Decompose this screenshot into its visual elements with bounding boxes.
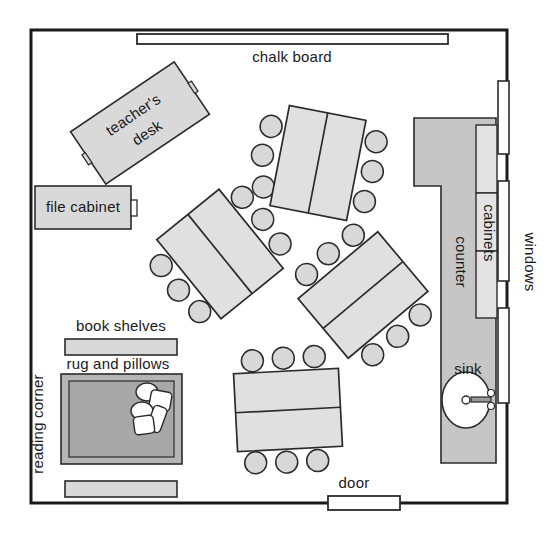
sink-faucet-handle-bottom-icon <box>488 403 495 410</box>
rug-and-pillows-label: rug and pillows <box>66 355 169 372</box>
window-segment-1 <box>498 81 509 154</box>
window-segment-3 <box>498 308 509 403</box>
book-shelves-label: book shelves <box>76 317 166 334</box>
chair <box>275 451 298 474</box>
chair <box>306 449 329 472</box>
window-segment-2 <box>498 181 509 281</box>
file-cabinet-handle-icon <box>131 200 137 216</box>
sink-drain-icon <box>462 396 470 404</box>
cabinet-section-1 <box>476 125 497 193</box>
book-shelves <box>65 339 177 355</box>
classroom-floor-plan: chalk boarddoorwindowscountercabinetssin… <box>0 0 558 533</box>
door-label: door <box>339 474 370 491</box>
chair <box>241 349 264 372</box>
counter-label: counter <box>453 236 470 287</box>
file-cabinet-label: file cabinet <box>46 198 121 215</box>
floor-plan-canvas: chalk boarddoorwindowscountercabinetssin… <box>0 0 558 533</box>
pillow-5 <box>133 415 155 436</box>
chair <box>272 347 295 370</box>
windows-label: windows <box>522 232 539 292</box>
chalk-board <box>137 34 448 44</box>
sink-faucet-handle-top-icon <box>488 390 495 397</box>
chair <box>244 451 267 474</box>
sink-label: sink <box>454 360 482 377</box>
door <box>328 496 400 510</box>
lower-shelf <box>65 481 177 497</box>
cabinets-label: cabinets <box>481 204 498 261</box>
chair <box>303 345 326 368</box>
chalk-board-label: chalk board <box>252 48 332 65</box>
reading-corner-label: reading corner <box>29 374 46 474</box>
sink-faucet-icon <box>471 397 491 402</box>
